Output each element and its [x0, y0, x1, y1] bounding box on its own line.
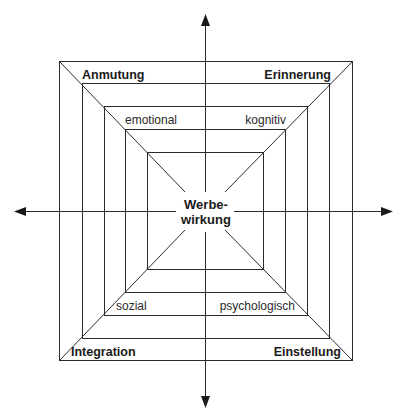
label-einstellung: Einstellung	[274, 346, 341, 359]
arrow-left-icon	[14, 207, 26, 216]
center-label-line1: Werbe-	[178, 197, 234, 212]
diagonal-bottom-left	[60, 230, 186, 361]
label-kognitiv: kognitiv	[245, 114, 286, 126]
label-psychologisch: psychologisch	[220, 300, 295, 312]
center-label: Werbe- wirkung	[178, 197, 234, 227]
center-label-line2: wirkung	[178, 212, 234, 227]
label-sozial: sozial	[116, 300, 147, 312]
label-emotional: emotional	[125, 114, 177, 126]
label-erinnerung: Erinnerung	[264, 69, 331, 82]
label-integration: Integration	[71, 346, 136, 359]
label-anmutung: Anmutung	[82, 69, 144, 82]
arrow-right-icon	[381, 207, 393, 216]
diagonal-bottom-right	[225, 230, 353, 361]
arrow-down-icon	[201, 396, 210, 408]
arrow-up-icon	[201, 14, 210, 26]
